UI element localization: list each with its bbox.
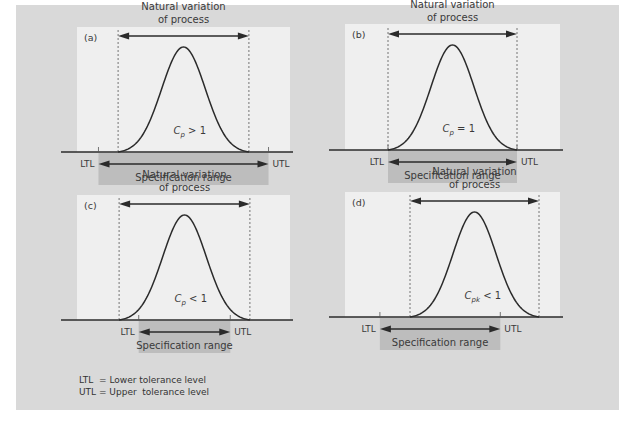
natural-variation-title: Natural variation — [432, 166, 516, 177]
utl-label: UTL — [273, 159, 290, 169]
panel-d: (d)Natural variationof processLTLUTLSpec… — [329, 166, 563, 350]
legend-utl: UTL = Upper tolerance level — [79, 386, 209, 398]
natural-variation-title: Natural variation — [410, 0, 494, 10]
ltl-label: LTL — [80, 159, 94, 169]
panel-label: (d) — [352, 197, 365, 208]
panel-a: (a)Natural variationof processLTLUTLSpec… — [61, 1, 293, 185]
utl-label: UTL — [234, 327, 251, 337]
panel-label: (c) — [84, 200, 97, 211]
spec-range-label: Specification range — [136, 340, 232, 351]
panel-b: (b)Natural variationof processLTLUTLSpec… — [329, 0, 563, 183]
natural-variation-subtitle: of process — [427, 12, 478, 23]
panel-label: (b) — [352, 29, 365, 40]
legend-ltl: LTL = Lower tolerance level — [79, 374, 209, 386]
panel-label: (a) — [84, 32, 97, 43]
natural-variation-title: Natural variation — [141, 1, 225, 12]
ltl-label: LTL — [362, 324, 376, 334]
natural-variation-subtitle: of process — [158, 14, 209, 25]
natural-variation-subtitle: of process — [449, 179, 500, 190]
natural-variation-title: Natural variation — [142, 169, 226, 180]
panel-c: (c)Natural variationof processLTLUTLSpec… — [61, 169, 293, 353]
legend: LTL = Lower tolerance levelUTL = Upper t… — [79, 374, 209, 398]
spec-range-label: Specification range — [392, 337, 488, 348]
utl-label: UTL — [504, 324, 521, 334]
ltl-label: LTL — [120, 327, 134, 337]
ltl-label: LTL — [370, 157, 384, 167]
utl-label: UTL — [521, 157, 538, 167]
process-capability-figure: (a)Natural variationof processLTLUTLSpec… — [0, 0, 635, 424]
natural-variation-subtitle: of process — [159, 182, 210, 193]
